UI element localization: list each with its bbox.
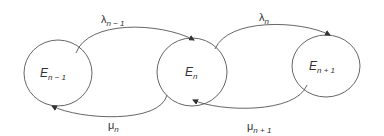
state-subscript: n + 1	[317, 66, 335, 75]
state-subscript: n	[193, 72, 197, 81]
edge-lambda-n-minus-1	[76, 27, 194, 53]
state-label-e-n-minus-1: En − 1	[40, 67, 66, 82]
state-subscript: n − 1	[48, 73, 66, 82]
state-label-e-n: En	[185, 66, 197, 81]
edge-subscript: n	[265, 17, 269, 26]
state-label-e-n-plus-1: En + 1	[309, 60, 335, 75]
edge-mu-n-plus-1	[193, 85, 307, 108]
edge-subscript: n + 1	[253, 126, 271, 135]
edge-subscript: n	[114, 125, 118, 134]
edge-mu-n	[52, 95, 167, 117]
edge-label-mu-n: μn	[108, 120, 119, 134]
state-base: E	[309, 59, 317, 73]
edge-label-lambda-n: λn	[259, 12, 269, 26]
state-base: E	[40, 66, 48, 80]
edge-label-mu-n-plus-1: μn + 1	[247, 121, 271, 135]
edge-lambda-n	[215, 24, 330, 49]
edge-label-lambda-n-minus-1: λn − 1	[101, 14, 125, 28]
edge-subscript: n − 1	[107, 19, 125, 28]
state-base: E	[185, 65, 193, 79]
